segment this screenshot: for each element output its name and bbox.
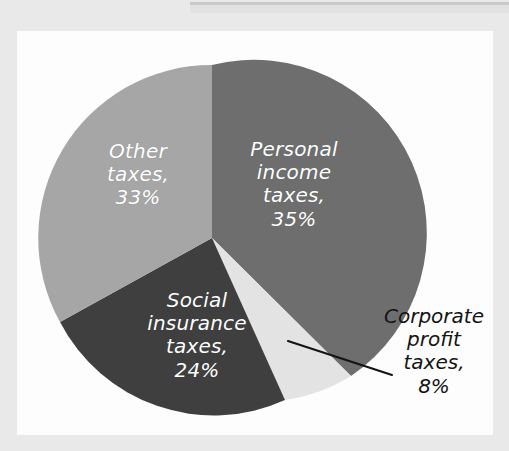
pie-label-personal-income-taxes: Personal income taxes, 35% — [228, 138, 360, 231]
pie-label-other-taxes: Other taxes, 33% — [78, 140, 198, 210]
page-root: Personal income taxes, 35% Other taxes, … — [0, 0, 509, 451]
pie-label-corporate-profit-taxes: Corporate profit taxes, 8% — [368, 305, 500, 398]
pie-chart: Personal income taxes, 35% Other taxes, … — [0, 0, 509, 451]
pie-label-social-insurance-taxes: Social insurance taxes, 24% — [122, 289, 272, 382]
